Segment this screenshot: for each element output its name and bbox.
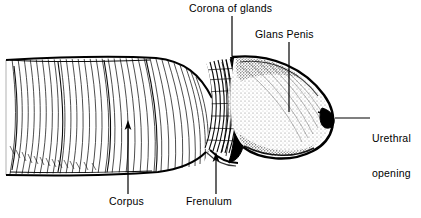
illustration-canvas (0, 0, 421, 218)
shaft-corpus (6, 57, 214, 175)
label-corpus: Corpus (109, 196, 144, 208)
label-urethral-line2: opening (372, 168, 411, 180)
label-corona-of-glands: Corona of glands (189, 3, 272, 15)
anatomical-diagram: Corona of glands Glans Penis Urethral op… (0, 0, 421, 218)
label-glans-penis: Glans Penis (255, 29, 314, 41)
label-frenulum: Frenulum (186, 196, 232, 208)
label-urethral-line1: Urethral (372, 133, 411, 145)
label-urethral-opening: Urethral opening (372, 110, 411, 202)
